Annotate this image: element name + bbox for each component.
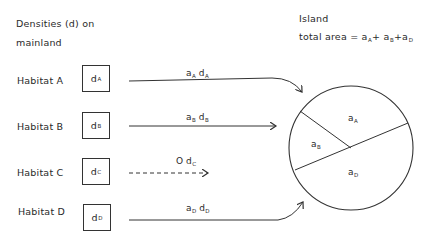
arrow-habitat-d bbox=[129, 202, 303, 220]
arrow-habitat-a bbox=[129, 78, 302, 92]
diagram-graphics bbox=[0, 0, 428, 245]
divider-ab bbox=[300, 111, 351, 148]
divider-d bbox=[295, 123, 408, 170]
